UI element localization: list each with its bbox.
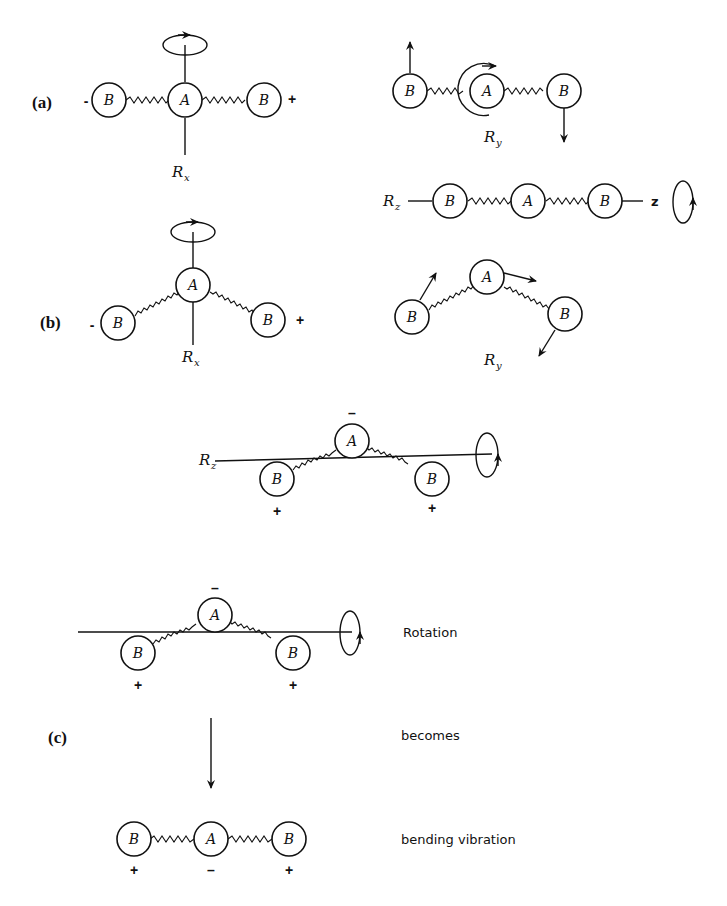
sign-plus: + bbox=[134, 677, 142, 693]
part-a-rz-linear: R z B A B z bbox=[382, 181, 693, 223]
atom-b-label: B bbox=[258, 92, 269, 108]
part-c-transition: (c) becomes bbox=[48, 718, 460, 788]
atom-b-label: B bbox=[262, 312, 273, 328]
part-a-ry-linear: B A B R y bbox=[393, 42, 581, 148]
atom-b-label: B bbox=[103, 92, 114, 108]
part-a-rx-linear: (a) - B A B + R x bbox=[32, 35, 296, 183]
bond-spring bbox=[126, 97, 169, 103]
part-c-label: (c) bbox=[48, 728, 67, 747]
ry-subscript: y bbox=[495, 137, 502, 148]
part-b-label: (b) bbox=[40, 313, 61, 332]
rx-label: R bbox=[181, 348, 193, 366]
bond-spring bbox=[429, 285, 474, 310]
rotation-loop-icon bbox=[673, 181, 693, 223]
sign-minus: - bbox=[90, 317, 95, 333]
atom-b-label: B bbox=[559, 306, 570, 322]
atom-a-label: A bbox=[178, 92, 190, 108]
molecular-rotation-diagram: (a) - B A B + R x B A B R y R bbox=[0, 0, 727, 906]
bond-spring bbox=[504, 88, 543, 94]
rz-label: R bbox=[382, 192, 394, 210]
sign-minus: – bbox=[211, 580, 219, 596]
atom-a-label: A bbox=[186, 277, 198, 293]
ry-label: R bbox=[483, 128, 495, 146]
part-a-label: (a) bbox=[32, 93, 52, 112]
atom-b-label: B bbox=[558, 83, 569, 99]
bond-spring bbox=[366, 447, 408, 464]
bond-spring bbox=[229, 621, 271, 638]
sign-plus: + bbox=[285, 862, 293, 878]
caption-bending-vibration: bending vibration bbox=[401, 832, 516, 847]
atom-a-label: A bbox=[521, 193, 533, 209]
bond-spring bbox=[468, 198, 511, 204]
atom-b-label: B bbox=[287, 645, 298, 661]
rx-label: R bbox=[171, 163, 183, 181]
sign-minus: - bbox=[84, 93, 89, 109]
sign-plus: + bbox=[288, 91, 296, 107]
bond-spring bbox=[153, 624, 196, 644]
atom-a-label: A bbox=[480, 83, 492, 99]
sign-plus: + bbox=[273, 503, 281, 519]
sign-plus: + bbox=[289, 677, 297, 693]
sign-minus: – bbox=[207, 862, 215, 878]
bond-spring bbox=[202, 97, 245, 103]
rz-label: R bbox=[198, 451, 210, 469]
atom-b-label: B bbox=[599, 193, 610, 209]
bond-spring bbox=[293, 450, 336, 470]
atom-b-label: B bbox=[406, 309, 417, 325]
rx-subscript: x bbox=[194, 357, 200, 368]
bond-spring bbox=[228, 836, 272, 842]
atom-a-label: A bbox=[480, 269, 492, 285]
atom-b-label: B bbox=[404, 83, 415, 99]
atom-b-label: B bbox=[271, 471, 282, 487]
atom-a-label: A bbox=[204, 831, 216, 847]
displacement-arrow-icon bbox=[539, 330, 555, 356]
sign-plus: + bbox=[130, 862, 138, 878]
caption-rotation: Rotation bbox=[403, 625, 457, 640]
ry-subscript: y bbox=[495, 360, 502, 371]
atom-b-label: B bbox=[132, 645, 143, 661]
displacement-arrow-icon bbox=[504, 273, 536, 281]
part-c-rotation: – A B + B + Rotation bbox=[78, 580, 457, 693]
rx-subscript: x bbox=[184, 172, 190, 183]
bond-spring bbox=[150, 836, 194, 842]
rz-subscript: z bbox=[394, 201, 401, 212]
sign-minus: – bbox=[348, 405, 356, 421]
part-c-bending: B + A – B + bending vibration bbox=[117, 822, 516, 878]
sign-plus: + bbox=[428, 500, 436, 516]
atom-b-label: B bbox=[444, 193, 455, 209]
atom-a-label: A bbox=[345, 433, 357, 449]
part-b-ry-bent: B A B R y bbox=[395, 260, 582, 371]
rotation-loop-icon bbox=[340, 611, 360, 655]
bond-spring bbox=[504, 287, 549, 309]
caption-becomes: becomes bbox=[401, 728, 460, 743]
ry-label: R bbox=[483, 351, 495, 369]
bond-spring bbox=[546, 198, 589, 204]
atom-a-label: A bbox=[208, 607, 220, 623]
part-b-rz-bent: R z – A B + B + bbox=[198, 405, 498, 519]
sign-plus: + bbox=[296, 312, 304, 328]
atom-b-label: B bbox=[112, 315, 123, 331]
z-axis-label: z bbox=[651, 194, 659, 209]
part-b-rx-bent: (b) - B A B + R x bbox=[40, 222, 304, 368]
displacement-arrow-icon bbox=[420, 273, 436, 300]
atom-b-label: B bbox=[128, 831, 139, 847]
atom-b-label: B bbox=[283, 831, 294, 847]
atom-b-label: B bbox=[426, 471, 437, 487]
